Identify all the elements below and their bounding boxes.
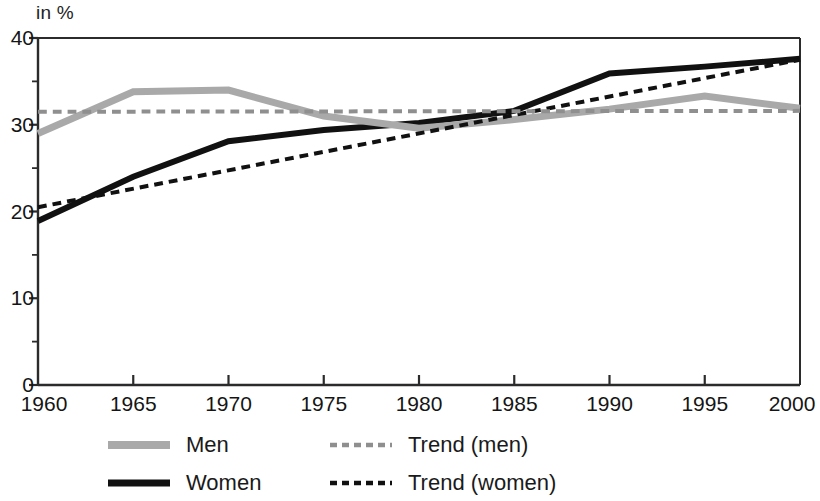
x-tick-label: 1995 [665,392,745,416]
legend-item[interactable]: Trend (women) [330,468,556,498]
women-line-swatch [108,468,170,498]
legend-item[interactable]: Women [108,468,261,498]
x-tick-label: 1990 [570,392,650,416]
trend-men-line-swatch [330,430,392,460]
data-series-layer [38,59,800,221]
legend-label: Trend (men) [408,434,528,456]
legend-label: Men [186,434,229,456]
y-tick-label: 40 [0,26,34,50]
men-line-swatch [108,430,170,460]
x-tick-label: 1975 [284,392,364,416]
x-tick-label: 1980 [379,392,459,416]
series-line-men [38,90,800,133]
x-axis-ticks [133,375,705,385]
x-tick-label: 1970 [189,392,269,416]
legend-item[interactable]: Trend (men) [330,430,528,460]
y-tick-label: 30 [0,113,34,137]
trend-women-line-swatch [330,468,392,498]
chart-legend: MenWomenTrend (men)Trend (women) [0,424,812,501]
y-tick-label: 20 [0,200,34,224]
y-tick-label: 10 [0,286,34,310]
plot-area [0,0,812,420]
x-tick-label: 1960 [4,392,84,416]
series-line-trend-women [38,60,800,207]
series-line-trend-men [38,111,800,112]
x-tick-label: 2000 [752,392,820,416]
legend-label: Women [186,472,261,494]
legend-item[interactable]: Men [108,430,229,460]
legend-label: Trend (women) [408,472,556,494]
x-tick-label: 1965 [93,392,173,416]
x-tick-label: 1985 [474,392,554,416]
